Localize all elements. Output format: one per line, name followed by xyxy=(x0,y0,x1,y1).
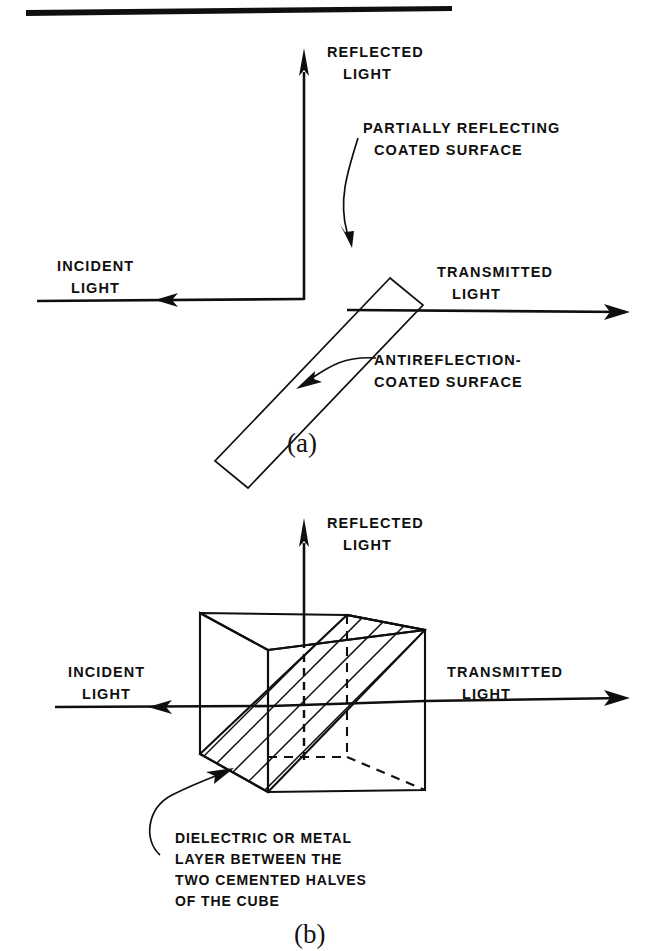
panel-a-callout-top-line2: COATED SURFACE xyxy=(374,142,523,158)
panel-a-callout-top-leader xyxy=(340,138,358,248)
panel-a-transmitted-light-line1: TRANSMITTED xyxy=(437,264,553,280)
panel-a-transmitted-light-line2: LIGHT xyxy=(452,286,501,302)
panel-b-callout-line2: LAYER BETWEEN THE xyxy=(175,851,342,867)
panel-a-callout-bottom-line1: ANTIREFLECTION- xyxy=(374,352,522,368)
panel-b-reflected-ray xyxy=(299,518,309,760)
panel-a: REFLECTED LIGHT PARTIALLY REFLECTING COA… xyxy=(37,44,630,488)
panel-a-reflected-light-line1: REFLECTED xyxy=(327,44,424,60)
panel-a-reflected-ray xyxy=(299,48,309,300)
panel-a-callout-bottom-leader xyxy=(296,358,376,389)
panel-b-transmitted-light-line1: TRANSMITTED xyxy=(447,664,563,680)
panel-b-incident-ray xyxy=(55,700,271,714)
panel-a-callout-top-line1: PARTIALLY REFLECTING xyxy=(363,120,560,136)
panel-b-label: (b) xyxy=(294,919,325,949)
panel-a-callout-bottom-line2: COATED SURFACE xyxy=(374,374,523,390)
panel-b-incident-light-line1: INCIDENT xyxy=(68,664,145,680)
panel-b: REFLECTED LIGHT INCIDENT LIGHT TRANSMITT… xyxy=(55,515,630,949)
panel-a-label: (a) xyxy=(287,428,317,458)
panel-a-incident-light-line1: INCIDENT xyxy=(57,258,134,274)
panel-a-reflected-light-line2: LIGHT xyxy=(343,66,392,82)
panel-b-incident-light-line2: LIGHT xyxy=(82,686,131,702)
panel-b-transmitted-ray xyxy=(425,690,630,706)
beamsplitter-figure: REFLECTED LIGHT PARTIALLY REFLECTING COA… xyxy=(0,0,661,951)
panel-b-transmitted-light-line2: LIGHT xyxy=(462,686,511,702)
panel-a-transmitted-ray xyxy=(347,304,630,320)
panel-b-callout-line3: TWO CEMENTED HALVES xyxy=(175,872,367,888)
panel-b-callout-line4: OF THE CUBE xyxy=(175,893,280,909)
panel-a-incident-light-line2: LIGHT xyxy=(71,280,120,296)
panel-b-reflected-light-line2: LIGHT xyxy=(343,537,392,553)
panel-b-reflected-light-line1: REFLECTED xyxy=(327,515,424,531)
top-horizontal-rule xyxy=(26,6,452,16)
panel-b-callout-line1: DIELECTRIC OR METAL xyxy=(175,830,352,846)
